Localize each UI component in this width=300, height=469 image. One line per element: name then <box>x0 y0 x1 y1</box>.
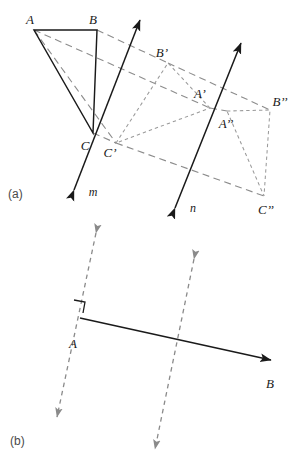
connector-Bprime-to-Bdoubleprime <box>168 63 270 110</box>
label-B-panel-b: B <box>266 376 274 391</box>
label-B: B <box>89 12 97 27</box>
triangle-A2B2C2 <box>227 110 270 196</box>
reflection-connectors <box>34 30 270 196</box>
parallel-line-left <box>57 233 96 417</box>
label-A-double-prime: A’’ <box>218 116 234 131</box>
label-C-double-prime: C’’ <box>258 202 274 217</box>
panel-a: A B C A’ B’ C’ A’’ B’’ C’’ m n (a) <box>8 12 288 217</box>
connector-Aprime-to-Adoubleprime <box>210 108 227 111</box>
triangle-ABC <box>34 30 97 133</box>
part-label-a: (a) <box>8 187 23 201</box>
label-line-n: n <box>190 201 196 215</box>
triangle-A1B1C1 <box>116 63 210 143</box>
label-line-m: m <box>89 185 98 199</box>
label-B-double-prime: B’’ <box>272 94 287 109</box>
connector-A-to-Cprime <box>34 30 116 143</box>
triangle-ABC-outline <box>34 30 97 133</box>
label-B-prime: B’ <box>156 45 168 60</box>
connector-C-to-Cprime <box>93 133 116 143</box>
triangle-A2B2C2-outline <box>227 110 270 196</box>
label-A-panel-b: A <box>68 336 77 351</box>
label-A-prime: A’ <box>193 86 206 101</box>
figure-canvas: A B C A’ B’ C’ A’’ B’’ C’’ m n (a) A <box>0 0 300 469</box>
ray-AB <box>80 318 271 360</box>
panel-b: A B (b) <box>10 233 274 449</box>
label-C: C <box>81 138 90 153</box>
label-A: A <box>25 12 34 27</box>
mirror-line-m <box>74 20 140 190</box>
triangle-A1B1C1-outline <box>116 63 210 143</box>
geometry-figure: A B C A’ B’ C’ A’’ B’’ C’’ m n (a) A <box>0 0 300 469</box>
part-label-b: (b) <box>10 434 25 448</box>
label-C-prime: C’ <box>104 145 117 160</box>
parallel-line-right <box>155 259 194 449</box>
